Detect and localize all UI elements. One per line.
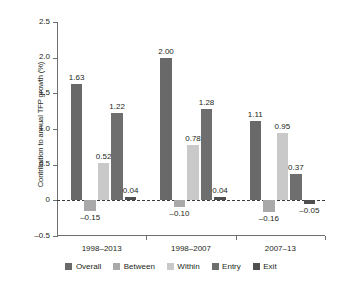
bar bbox=[214, 197, 226, 200]
bar-chart: Contribution to annual TFP growth (%) –0… bbox=[0, 0, 342, 292]
bar bbox=[125, 197, 137, 200]
bar-value-label: 0.95 bbox=[275, 122, 291, 131]
plot-area: –0.500.51.01.52.02.5 1.63–0.150.521.220.… bbox=[57, 22, 325, 236]
x-axis-tick-mark bbox=[146, 236, 147, 240]
legend-item-label: Entry bbox=[222, 262, 241, 271]
bar bbox=[84, 200, 96, 211]
bar-value-label: –0.16 bbox=[259, 214, 279, 223]
y-axis-tick-mark bbox=[53, 129, 58, 130]
bar bbox=[250, 121, 262, 200]
bar bbox=[160, 58, 172, 201]
y-axis-tick-label: 0.5 bbox=[39, 159, 50, 168]
bar bbox=[174, 200, 186, 207]
legend-item[interactable]: Overall bbox=[65, 262, 101, 271]
y-axis-tick-label: 1.0 bbox=[39, 124, 50, 133]
y-axis-tick-label: 2.5 bbox=[39, 17, 50, 26]
bar bbox=[201, 109, 213, 200]
y-axis-tick-label: 0 bbox=[46, 195, 50, 204]
zero-line bbox=[57, 200, 325, 201]
legend-swatch-icon bbox=[167, 263, 174, 270]
bar bbox=[111, 113, 123, 200]
bar-value-label: 1.63 bbox=[69, 73, 85, 82]
legend-swatch-icon bbox=[253, 263, 260, 270]
bar-value-label: 2.00 bbox=[158, 47, 174, 56]
x-axis-group-label: 1998–2007 bbox=[171, 244, 211, 253]
x-axis-group-label: 2007–13 bbox=[265, 244, 296, 253]
legend-swatch-icon bbox=[113, 263, 120, 270]
legend-item[interactable]: Within bbox=[167, 262, 200, 271]
y-axis-tick-label: 1.5 bbox=[39, 88, 50, 97]
legend-item-label: Between bbox=[124, 262, 155, 271]
chart-legend: OverallBetweenWithinEntryExit bbox=[0, 262, 342, 271]
bar bbox=[290, 174, 302, 200]
bar-value-label: –0.05 bbox=[299, 206, 319, 215]
x-axis-line bbox=[57, 235, 325, 236]
legend-swatch-icon bbox=[65, 263, 72, 270]
bar-value-label: 0.04 bbox=[212, 186, 228, 195]
y-axis-tick-mark bbox=[53, 22, 58, 23]
bar bbox=[277, 133, 289, 201]
legend-item-label: Exit bbox=[263, 262, 276, 271]
bar-value-label: 0.52 bbox=[96, 152, 112, 161]
bar-value-label: –0.10 bbox=[169, 209, 189, 218]
x-axis-tick-mark bbox=[236, 236, 237, 240]
bar-value-label: –0.15 bbox=[80, 213, 100, 222]
bar-value-label: 1.11 bbox=[248, 110, 263, 119]
y-axis-tick-mark bbox=[53, 165, 58, 166]
y-axis-tick-label: 2.0 bbox=[39, 52, 50, 61]
legend-swatch-icon bbox=[212, 263, 219, 270]
legend-item[interactable]: Exit bbox=[253, 262, 277, 271]
legend-item[interactable]: Entry bbox=[212, 262, 241, 271]
legend-item-label: Within bbox=[177, 262, 199, 271]
bar-value-label: 1.22 bbox=[109, 102, 125, 111]
x-axis-tick-mark bbox=[325, 236, 326, 240]
y-axis-tick-label: –0.5 bbox=[34, 231, 50, 240]
legend-item[interactable]: Between bbox=[113, 262, 155, 271]
bar bbox=[304, 200, 316, 204]
bar-value-label: 0.78 bbox=[185, 134, 201, 143]
bar-value-label: 0.04 bbox=[123, 186, 139, 195]
y-axis-tick-mark bbox=[53, 58, 58, 59]
y-axis-tick-mark bbox=[53, 93, 58, 94]
x-axis-group-label: 1998–2013 bbox=[82, 244, 122, 253]
bar bbox=[98, 163, 110, 200]
bar-value-label: 0.37 bbox=[288, 163, 304, 172]
bar bbox=[71, 84, 83, 200]
legend-item-label: Overall bbox=[76, 262, 101, 271]
bar bbox=[187, 145, 199, 201]
bar-value-label: 1.28 bbox=[199, 98, 215, 107]
bar bbox=[263, 200, 275, 211]
y-axis-tick-mark bbox=[53, 236, 58, 237]
